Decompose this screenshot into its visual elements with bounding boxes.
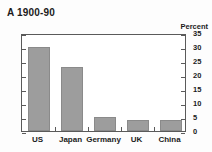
chart-title: A 1900-90 bbox=[7, 7, 55, 18]
y-tick-label-10: 10 bbox=[193, 100, 201, 108]
y-tick-label-20: 20 bbox=[193, 72, 201, 80]
x-label-china: China bbox=[140, 135, 200, 144]
y-tick-label-15: 15 bbox=[193, 86, 201, 94]
y-tick-label-35: 35 bbox=[193, 30, 201, 38]
y-tick-right-0 bbox=[181, 133, 185, 134]
x-tick-1 bbox=[55, 127, 56, 131]
x-tick-3 bbox=[121, 127, 122, 131]
x-tick-2 bbox=[88, 127, 89, 131]
plot-area bbox=[21, 34, 186, 132]
bar-germany bbox=[94, 117, 116, 131]
bar-uk bbox=[127, 120, 149, 131]
chart-figure: A 1900-90 Percent 05101520253035 USJapan… bbox=[0, 0, 212, 152]
y-tick-left-0 bbox=[22, 133, 26, 134]
y-tick-label-25: 25 bbox=[193, 58, 201, 66]
bar-china bbox=[160, 120, 182, 131]
bar-us bbox=[28, 47, 50, 131]
x-tick-4 bbox=[154, 127, 155, 131]
bar-japan bbox=[61, 67, 83, 131]
y-tick-label-30: 30 bbox=[193, 44, 201, 52]
bars-layer bbox=[22, 35, 185, 131]
y-tick-label-5: 5 bbox=[193, 114, 197, 122]
